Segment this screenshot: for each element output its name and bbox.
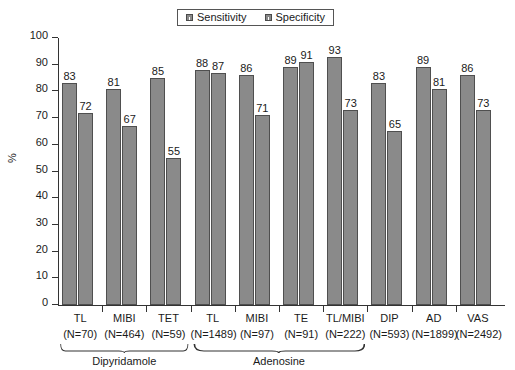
legend-label-specificity: Specificity xyxy=(276,12,326,23)
legend-swatch-icon xyxy=(186,14,193,21)
x-axis-group-label: TET(N=59) xyxy=(146,311,190,343)
legend-swatch-icon xyxy=(265,14,272,21)
bar-sensitivity: 83 xyxy=(371,83,386,305)
bar-specificity: 81 xyxy=(432,89,447,305)
bar-specificity: 71 xyxy=(255,115,270,305)
bar-value-label: 83 xyxy=(63,71,75,82)
bar-value-label: 88 xyxy=(196,58,208,69)
bar-specificity: 67 xyxy=(122,126,137,305)
bar-value-label: 55 xyxy=(168,146,180,157)
bar-specificity: 65 xyxy=(387,131,402,305)
x-axis-category-count: (N=222) xyxy=(323,327,367,343)
x-axis-category-name: TL/MIBI xyxy=(323,311,367,327)
bar-sensitivity: 88 xyxy=(195,70,210,305)
bar-group: 8981 xyxy=(416,38,447,305)
bar-value-label: 67 xyxy=(124,114,136,125)
x-axis-category-count: (N=2492) xyxy=(456,327,500,343)
y-axis-tick-label: 100 xyxy=(30,30,48,41)
bracket-adenosine: Adenosine xyxy=(193,344,366,353)
bar-group: 8365 xyxy=(371,38,402,305)
y-axis-tick-label: 90 xyxy=(36,57,48,68)
bar-value-label: 65 xyxy=(389,119,401,130)
chart-figure: Sensitivity Specificity % 01020304050607… xyxy=(0,0,515,370)
bar-specificity: 73 xyxy=(476,110,491,305)
y-axis-tick: 70 xyxy=(52,117,58,118)
bar-sensitivity: 86 xyxy=(460,75,475,305)
y-axis-tick: 0 xyxy=(52,304,58,305)
y-axis-tick: 20 xyxy=(52,251,58,252)
x-axis-category-count: (N=464) xyxy=(102,327,146,343)
y-axis-tick-label: 10 xyxy=(36,270,48,281)
bar-value-label: 93 xyxy=(329,45,341,56)
bar-value-label: 71 xyxy=(256,103,268,114)
bar-sensitivity: 85 xyxy=(150,78,165,305)
bar-sensitivity: 89 xyxy=(283,67,298,305)
y-axis-tick: 40 xyxy=(52,197,58,198)
bar-sensitivity: 89 xyxy=(416,67,431,305)
x-axis-category-name: MIBI xyxy=(102,311,146,327)
x-axis-group-label: AD(N=1899) xyxy=(412,311,456,343)
bar-group: 8991 xyxy=(283,38,314,305)
y-axis-tick-label: 30 xyxy=(36,217,48,228)
x-axis-category-name: DIP xyxy=(367,311,411,327)
bar-value-label: 83 xyxy=(373,71,385,82)
x-axis-category-name: AD xyxy=(412,311,456,327)
y-axis-tick: 100 xyxy=(52,37,58,38)
bar-specificity: 87 xyxy=(211,73,226,305)
bar-specificity: 72 xyxy=(78,113,93,305)
legend-item-specificity: Specificity xyxy=(265,12,326,23)
y-axis-tick: 10 xyxy=(52,277,58,278)
y-axis-tick-label: 80 xyxy=(36,83,48,94)
bar-value-label: 72 xyxy=(79,101,91,112)
bar-value-label: 89 xyxy=(284,55,296,66)
y-axis-tick: 50 xyxy=(52,171,58,172)
x-axis-group-label: TL(N=1489) xyxy=(191,311,235,343)
x-axis-category-count: (N=593) xyxy=(367,327,411,343)
bracket-dipyridamole: Dipyridamole xyxy=(60,344,189,353)
bar-sensitivity: 86 xyxy=(239,75,254,305)
x-axis-category-name: TL xyxy=(191,311,235,327)
x-axis-category-name: TET xyxy=(146,311,190,327)
x-axis-category-name: MIBI xyxy=(235,311,279,327)
y-axis-tick: 30 xyxy=(52,224,58,225)
x-axis-line xyxy=(58,305,505,306)
x-axis-group-label: MIBI(N=464) xyxy=(102,311,146,343)
x-axis-category-name: VAS xyxy=(456,311,500,327)
y-axis-tick-label: 20 xyxy=(36,244,48,255)
bar-value-label: 91 xyxy=(300,50,312,61)
bar-group: 9373 xyxy=(327,38,358,305)
x-axis-category-name: TE xyxy=(279,311,323,327)
x-axis-category-count: (N=91) xyxy=(279,327,323,343)
bar-value-label: 86 xyxy=(461,63,473,74)
bar-value-label: 81 xyxy=(433,77,445,88)
x-axis-group-label: MIBI(N=97) xyxy=(235,311,279,343)
bar-value-label: 86 xyxy=(240,63,252,74)
chart-legend: Sensitivity Specificity xyxy=(177,9,334,26)
y-axis-tick-label: 60 xyxy=(36,137,48,148)
legend-label-sensitivity: Sensitivity xyxy=(197,12,247,23)
x-axis-group-label: DIP(N=593) xyxy=(367,311,411,343)
plot-area: 0102030405060708090100837281678555888786… xyxy=(58,38,500,305)
y-axis-tick: 60 xyxy=(52,144,58,145)
bar-group: 8167 xyxy=(106,38,137,305)
bar-sensitivity: 93 xyxy=(327,57,342,305)
bar-specificity: 91 xyxy=(299,62,314,305)
legend-item-sensitivity: Sensitivity xyxy=(186,12,247,23)
bar-specificity: 55 xyxy=(166,158,181,305)
bar-group: 8671 xyxy=(239,38,270,305)
y-axis-label: % xyxy=(6,153,18,163)
y-axis-tick-label: 70 xyxy=(36,110,48,121)
x-axis-group-label: TE(N=91) xyxy=(279,311,323,343)
x-axis-category-count: (N=1489) xyxy=(191,327,235,343)
bar-group: 8372 xyxy=(62,38,93,305)
y-axis-tick: 90 xyxy=(52,64,58,65)
x-axis-group-label: TL(N=70) xyxy=(58,311,102,343)
y-axis-tick-label: 0 xyxy=(42,297,48,308)
bar-specificity: 73 xyxy=(343,110,358,305)
bar-sensitivity: 83 xyxy=(62,83,77,305)
y-axis-tick-label: 40 xyxy=(36,190,48,201)
x-axis-group-label: TL/MIBI(N=222) xyxy=(323,311,367,343)
y-axis-tick-label: 50 xyxy=(36,164,48,175)
bar-sensitivity: 81 xyxy=(106,89,121,305)
bracket-label-dipyridamole: Dipyridamole xyxy=(60,353,189,370)
